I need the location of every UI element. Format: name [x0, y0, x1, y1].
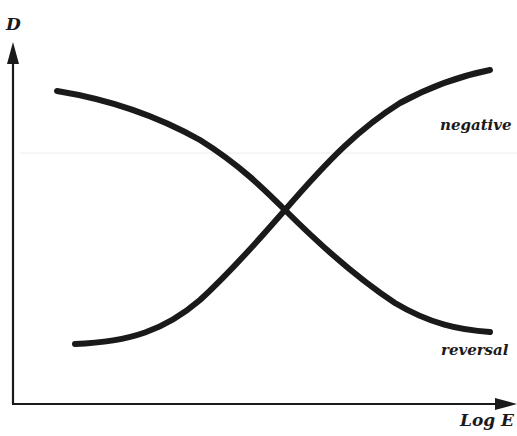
- series-label-negative: negative: [440, 116, 512, 134]
- series-label-reversal: reversal: [441, 341, 508, 359]
- y-axis-arrow-icon: [7, 42, 19, 64]
- y-axis-label: D: [6, 14, 21, 34]
- x-axis-label: Log E: [460, 410, 514, 430]
- curve-reversal: [57, 91, 490, 332]
- y-axis: [7, 42, 19, 404]
- x-axis-arrow-icon: [495, 398, 517, 410]
- chart-canvas: [0, 0, 517, 436]
- x-axis: [12, 398, 517, 410]
